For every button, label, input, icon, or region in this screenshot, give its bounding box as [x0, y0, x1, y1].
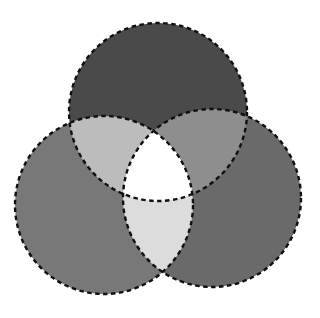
venn-diagram-canvas: [0, 0, 320, 318]
venn-diagram-figure: [0, 0, 320, 318]
